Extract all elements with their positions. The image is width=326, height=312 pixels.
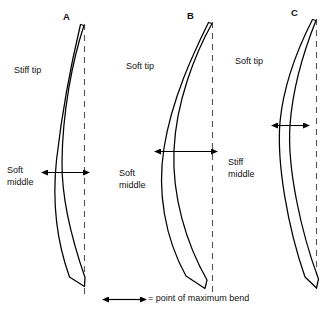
bow-c-label: C (291, 7, 298, 18)
bow-c-middle-label-line1: Stiff (228, 157, 243, 167)
bow-c-limb (279, 20, 318, 289)
bow-a-group (48, 24, 85, 296)
bow-b-middle-label: Soft middle (119, 168, 146, 191)
bow-c-middle-label: Stiff middle (228, 157, 255, 180)
bow-b-group (161, 22, 213, 294)
bow-c-group (278, 19, 319, 292)
bow-b-middle-label-line2: middle (119, 180, 146, 190)
bow-a-middle-label-line2: middle (7, 177, 34, 187)
bow-bend-diagram: A Stiff tip Soft middle B Soft tip Soft … (0, 0, 326, 312)
bow-a-limb (55, 25, 85, 287)
bow-b-tip-label: Soft tip (126, 61, 154, 73)
bow-a-middle-label: Soft middle (7, 165, 34, 188)
bow-b-limb (162, 23, 212, 289)
bow-a-middle-label-line1: Soft (7, 165, 23, 175)
bow-a-tip-label: Stiff tip (14, 65, 41, 77)
diagram-canvas (0, 0, 326, 312)
legend-caption: = point of maximum bend (148, 293, 249, 303)
bow-c-middle-label-line2: middle (228, 169, 255, 179)
bow-a-label: A (63, 11, 70, 22)
bow-b-middle-label-line1: Soft (119, 168, 135, 178)
bow-b-label: B (187, 10, 194, 21)
bow-c-tip-label: Soft tip (235, 56, 263, 68)
